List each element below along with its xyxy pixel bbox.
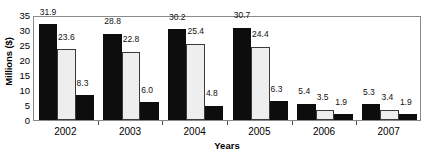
bar-group: 30.724.46.3 <box>233 17 288 120</box>
bar-value-label: 28.8 <box>103 17 121 26</box>
bar-value-label: 6.3 <box>270 84 283 93</box>
y-axis-tick-label: 20 <box>19 56 30 66</box>
bar-group: 28.822.86.0 <box>103 17 158 120</box>
x-axis-tick-mark <box>356 121 357 125</box>
bar[interactable] <box>316 110 334 121</box>
y-axis-title-text: Millions ($) <box>3 37 14 85</box>
x-axis-tick-mark <box>162 121 163 125</box>
bar-value-label: 24.4 <box>251 30 269 39</box>
bar-group: 5.33.41.9 <box>362 17 417 120</box>
bar-chart: Millions ($) 05101520253035 31.923.68.32… <box>0 0 427 157</box>
x-axis-tick-mark <box>227 121 228 125</box>
x-axis-tick-label: 2006 <box>313 126 335 137</box>
x-axis-tick-label: 2007 <box>378 126 400 137</box>
bar[interactable] <box>140 102 158 120</box>
bar-value-label: 5.3 <box>362 87 375 96</box>
bar-value-label: 5.4 <box>297 87 310 96</box>
plot-inner: 31.923.68.328.822.86.030.225.44.830.724.… <box>34 17 420 120</box>
bar-group: 30.225.44.8 <box>168 17 223 120</box>
bar[interactable] <box>334 114 352 120</box>
y-axis-tick-label: 0 <box>25 116 30 126</box>
bar[interactable] <box>168 29 186 120</box>
x-axis-tick-label: 2005 <box>248 126 270 137</box>
bar-value-label: 23.6 <box>57 32 75 41</box>
bar-value-label: 1.9 <box>399 97 412 106</box>
bar[interactable] <box>270 101 288 120</box>
bar-value-label: 3.4 <box>380 93 393 102</box>
bar[interactable] <box>186 44 204 120</box>
bar-value-label: 3.5 <box>316 93 329 102</box>
bar[interactable] <box>233 28 251 120</box>
bar[interactable] <box>57 49 75 120</box>
y-axis-tick-label: 15 <box>19 71 30 81</box>
y-axis-tick-label: 25 <box>19 41 30 51</box>
bar[interactable] <box>205 106 223 120</box>
bar-value-label: 8.3 <box>76 78 89 87</box>
bar[interactable] <box>399 114 417 120</box>
bar-value-label: 25.4 <box>186 27 204 36</box>
x-axis-tick-label: 2004 <box>184 126 206 137</box>
bar-group: 5.43.51.9 <box>297 17 352 120</box>
bar[interactable] <box>39 24 57 120</box>
bar[interactable] <box>251 47 269 120</box>
y-axis-tick-label: 10 <box>19 86 30 96</box>
bar-value-label: 31.9 <box>39 7 57 16</box>
x-axis-tick-label: 2002 <box>54 126 76 137</box>
bar-value-label: 30.2 <box>168 12 186 21</box>
bar[interactable] <box>122 52 140 120</box>
x-axis-title: Years <box>33 140 421 151</box>
bar-value-label: 22.8 <box>122 35 140 44</box>
y-axis-tick-label: 30 <box>19 26 30 36</box>
bar[interactable] <box>76 95 94 120</box>
bar[interactable] <box>103 34 121 120</box>
y-axis-tick-label: 35 <box>19 11 30 21</box>
x-axis-tick-mark <box>292 121 293 125</box>
bar[interactable] <box>380 110 398 120</box>
bar-value-label: 4.8 <box>205 89 218 98</box>
bar[interactable] <box>297 104 315 120</box>
bar-value-label: 6.0 <box>140 85 153 94</box>
plot-area: 31.923.68.328.822.86.030.225.44.830.724.… <box>33 16 421 121</box>
bar[interactable] <box>362 104 380 120</box>
bar-group: 31.923.68.3 <box>39 17 94 120</box>
x-axis-tick-mark <box>98 121 99 125</box>
x-axis-tick-label: 2003 <box>119 126 141 137</box>
y-axis-tick-labels: 05101520253035 <box>14 16 31 121</box>
y-axis-tick-label: 5 <box>25 101 30 111</box>
bar-value-label: 1.9 <box>334 97 347 106</box>
bar-value-label: 30.7 <box>233 11 251 20</box>
